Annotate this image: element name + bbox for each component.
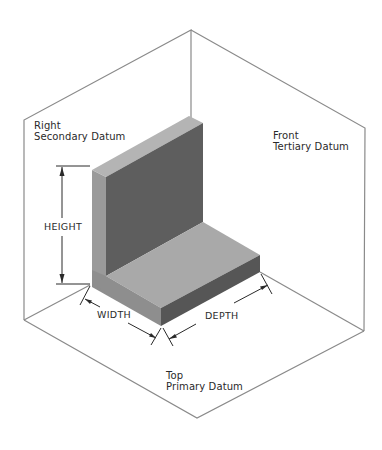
top-datum-plane <box>24 320 364 418</box>
height-label: HEIGHT <box>44 221 82 232</box>
right-datum-role: Secondary Datum <box>34 131 125 142</box>
frame-inner-edge-right <box>260 272 364 331</box>
depth-extension-right <box>261 274 272 294</box>
height-arrow-down-icon <box>60 274 65 283</box>
top-datum-label: Top Primary Datum <box>166 370 243 392</box>
top-datum-name: Top <box>166 370 243 381</box>
front-datum-label: Front Tertiary Datum <box>273 130 349 152</box>
width-arrow-right-icon <box>149 333 156 338</box>
top-datum-role: Primary Datum <box>166 381 243 392</box>
right-datum-label: Right Secondary Datum <box>34 120 125 142</box>
front-datum-role: Tertiary Datum <box>273 141 349 152</box>
depth-arrow-right-icon <box>260 285 268 290</box>
width-label: WIDTH <box>97 309 131 320</box>
frame-inner-edge-left <box>24 285 90 320</box>
right-datum-name: Right <box>34 120 125 131</box>
height-arrow-up-icon <box>60 167 65 176</box>
depth-label: DEPTH <box>205 310 239 321</box>
front-datum-name: Front <box>273 130 349 141</box>
l-block <box>92 116 260 326</box>
width-arrow-left-icon <box>85 299 92 304</box>
